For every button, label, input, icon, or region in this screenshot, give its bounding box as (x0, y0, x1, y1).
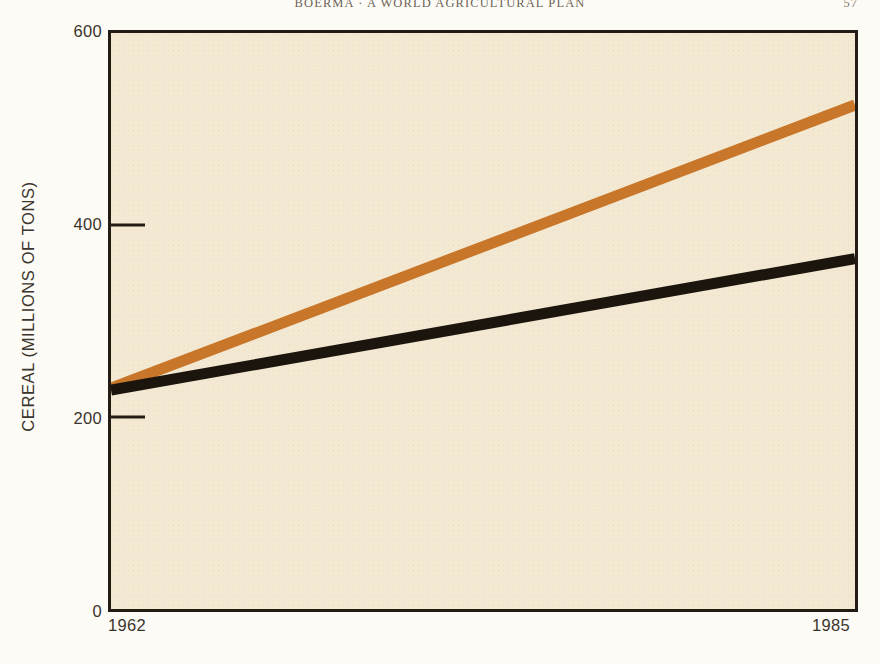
x-tick-label-end: 1985 (812, 616, 850, 635)
y-axis-title-text: CEREAL (MILLIONS OF TONS) (19, 181, 38, 431)
y-axis-title: CEREAL (MILLIONS OF TONS) (10, 0, 46, 612)
y-tick-label-0: 0 (48, 602, 102, 621)
y-tick-label-200: 200 (48, 409, 102, 428)
series-line-projected-demand (111, 105, 855, 388)
plot-svg (111, 33, 855, 609)
series-line-production-trend (111, 259, 855, 391)
y-axis-tick-labels: 600 400 200 0 (42, 0, 102, 664)
x-tick-label-start: 1962 (108, 616, 146, 635)
y-tick-label-600: 600 (48, 22, 102, 41)
y-tick-label-400: 400 (48, 215, 102, 234)
line-chart-figure: CEREAL (MILLIONS OF TONS) 600 400 200 0 … (0, 0, 880, 664)
plot-area (108, 30, 858, 612)
